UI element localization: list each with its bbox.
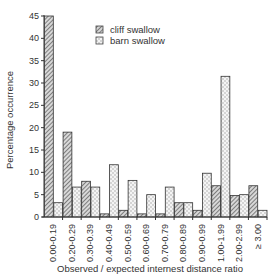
- x-tick-label: 0.40-0.49: [104, 224, 114, 262]
- bar-cliff-swallow: [63, 132, 72, 217]
- bar-cliff-swallow: [249, 186, 258, 217]
- x-tick-label: 2.00-2.99: [234, 224, 244, 262]
- legend: cliff swallow barn swallow: [96, 24, 165, 46]
- bar-barn-swallow: [165, 187, 174, 217]
- bar-cliff-swallow: [193, 210, 202, 217]
- bar-chart: 051015202530354045 0.00-0.190.20-0.290.3…: [0, 0, 272, 277]
- bar-barn-swallow: [221, 76, 230, 217]
- bar-barn-swallow: [128, 180, 137, 217]
- bar-barn-swallow: [110, 165, 119, 217]
- bar-cliff-swallow: [119, 210, 128, 217]
- x-tick-label: 0.30-0.39: [85, 224, 95, 262]
- bar-cliff-swallow: [212, 186, 221, 217]
- bar-barn-swallow: [147, 195, 156, 217]
- y-axis: 051015202530354045: [29, 11, 44, 222]
- x-tick-label: 0.80-0.89: [178, 224, 188, 262]
- y-tick-label: 0: [34, 212, 39, 222]
- x-tick-label: 1.00-1.99: [216, 224, 226, 262]
- bar-barn-swallow: [72, 187, 81, 217]
- legend-item-barn-swallow: barn swallow: [96, 35, 165, 46]
- y-tick-label: 15: [29, 145, 39, 155]
- x-axis: 0.00-0.190.20-0.290.30-0.390.40-0.490.50…: [42, 217, 267, 262]
- y-tick-label: 35: [29, 56, 39, 66]
- x-axis-title: Observed / expected internest distance r…: [57, 263, 243, 274]
- y-tick-label: 40: [29, 33, 39, 43]
- legend-label: barn swallow: [110, 35, 165, 46]
- y-axis-title: Percentage occurrence: [4, 71, 15, 169]
- y-tick-label: 45: [29, 11, 39, 21]
- x-tick-label: 0.00-0.19: [48, 224, 58, 262]
- y-tick-label: 20: [29, 123, 39, 133]
- y-tick-label: 25: [29, 100, 39, 110]
- y-tick-label: 30: [29, 78, 39, 88]
- bar-cliff-swallow: [45, 16, 54, 217]
- bar-barn-swallow: [258, 210, 267, 217]
- x-tick-label: 0.90-0.99: [197, 224, 207, 262]
- bar-barn-swallow: [202, 173, 211, 217]
- barn-swallow-swatch-icon: [96, 37, 103, 44]
- y-tick-label: 10: [29, 167, 39, 177]
- x-tick-label: ≥ 3.00: [253, 224, 263, 249]
- legend-item-cliff-swallow: cliff swallow: [96, 24, 160, 35]
- cliff-swallow-swatch-icon: [96, 26, 103, 33]
- bar-barn-swallow: [184, 203, 193, 217]
- bar-cliff-swallow: [82, 181, 91, 217]
- bar-cliff-swallow: [175, 203, 184, 217]
- bar-barn-swallow: [91, 187, 100, 217]
- bars: [45, 16, 268, 217]
- legend-label: cliff swallow: [110, 24, 160, 35]
- y-tick-label: 5: [34, 190, 39, 200]
- x-tick-label: 0.50-0.59: [123, 224, 133, 262]
- x-tick-label: 0.70-0.79: [160, 224, 170, 262]
- bar-cliff-swallow: [230, 196, 239, 217]
- x-tick-label: 0.60-0.69: [141, 224, 151, 262]
- x-tick-label: 0.20-0.29: [67, 224, 77, 262]
- bar-barn-swallow: [54, 203, 63, 217]
- bar-barn-swallow: [240, 195, 249, 217]
